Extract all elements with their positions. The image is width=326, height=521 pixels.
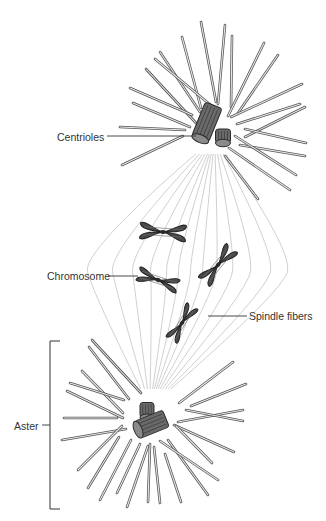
- astral-ray-highlight: [168, 440, 208, 495]
- mitosis-diagram: Centrioles Chromosome Spindle fibers Ast…: [0, 0, 326, 521]
- astral-ray-highlight: [179, 362, 233, 403]
- spindle-fiber: [153, 154, 208, 389]
- top-aster: [120, 22, 306, 199]
- astral-ray-highlight: [229, 148, 290, 190]
- astral-ray-highlight: [122, 136, 183, 165]
- astral-ray-highlight: [174, 425, 234, 452]
- astral-ray-highlight: [127, 446, 148, 507]
- bottom-centrioles: [131, 403, 169, 440]
- spindle-fiber: [168, 154, 271, 389]
- centromere: [160, 230, 166, 234]
- spindle-fiber: [154, 154, 209, 389]
- aster-label: Aster: [14, 420, 39, 432]
- chromatid: [138, 266, 180, 286]
- chromosome: [166, 302, 199, 343]
- astral-ray-highlight: [117, 444, 140, 493]
- astral-ray-highlight: [92, 340, 141, 393]
- astral-ray-highlight: [235, 136, 296, 175]
- chromatid: [136, 274, 178, 294]
- spindle-fiber: [150, 154, 205, 389]
- astral-ray-highlight: [165, 454, 181, 502]
- aster-bracket: [50, 341, 60, 509]
- chromosome: [136, 266, 181, 293]
- spindle-fibers: [87, 154, 288, 389]
- astral-ray-highlight: [154, 447, 160, 503]
- diagram-canvas: [0, 0, 326, 521]
- centriole: [216, 129, 231, 147]
- astral-ray-highlight: [218, 25, 225, 104]
- astral-ray-highlight: [100, 440, 131, 500]
- bracket-line: [50, 341, 60, 509]
- chromosome: [139, 222, 186, 242]
- astral-ray-highlight: [201, 22, 216, 102]
- astral-ray-highlight: [155, 59, 213, 107]
- chromosome-label: Chromosome: [47, 270, 110, 282]
- centrioles-label: Centrioles: [57, 131, 104, 143]
- astral-ray-highlight: [225, 156, 258, 199]
- spindle-fibers-label: Spindle fibers: [249, 310, 313, 322]
- astral-ray-highlight: [245, 129, 306, 143]
- astral-ray-highlight: [130, 88, 192, 115]
- bottom-aster: [62, 340, 246, 507]
